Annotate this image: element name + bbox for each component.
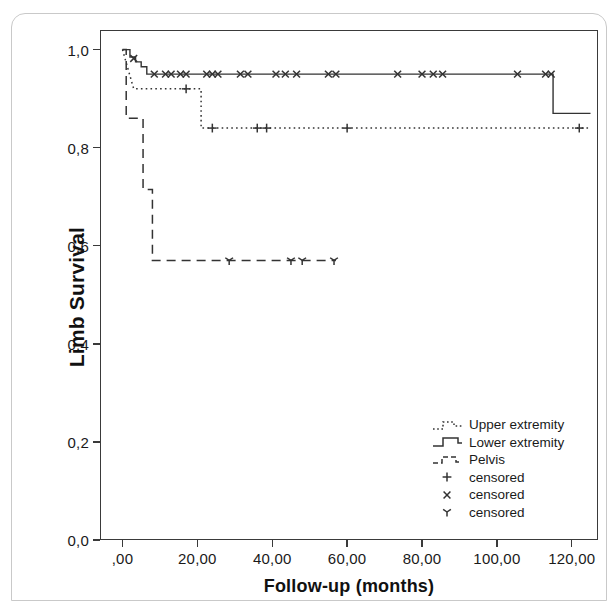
- legend-item: censored: [432, 469, 582, 487]
- x-tick-label: 20,00: [178, 550, 217, 567]
- x-tick-label: 120,00: [548, 550, 595, 567]
- x-tick-label: 100,00: [473, 550, 520, 567]
- legend-item-label: Lower extremity: [469, 436, 564, 450]
- y-tick-mark: [93, 49, 100, 50]
- x-tick-mark: [496, 540, 497, 547]
- legend-item: censored: [432, 486, 582, 504]
- y-tick-label: 1,0: [34, 41, 89, 58]
- x-tick-mark: [421, 540, 422, 547]
- y-tick-mark: [93, 441, 100, 442]
- x-tick-mark: [571, 540, 572, 547]
- y-axis-title: Limb Survival: [65, 187, 89, 407]
- legend-item-label: Upper extremity: [469, 418, 564, 432]
- solid-step-icon: [432, 434, 463, 450]
- y-tick-label: 0,2: [34, 433, 89, 450]
- cross-marker-icon: [432, 487, 463, 503]
- legend-item-label: Pelvis: [469, 453, 505, 467]
- tri-marker-icon: [432, 504, 463, 520]
- legend-item-label: censored: [469, 506, 525, 520]
- x-tick-label: 60,00: [328, 550, 367, 567]
- legend-item-label: censored: [469, 471, 525, 485]
- x-tick-label: ,00: [112, 550, 133, 567]
- chart-legend: Upper extremityLower extremityPelviscens…: [432, 416, 582, 521]
- x-tick-mark: [197, 540, 198, 547]
- x-tick-label: 40,00: [253, 550, 292, 567]
- legend-item: Upper extremity: [432, 416, 582, 434]
- legend-item-label: censored: [469, 488, 525, 502]
- x-axis-title: Follow-up (months): [100, 576, 598, 597]
- x-tick-label: 80,00: [403, 550, 442, 567]
- y-tick-mark: [93, 147, 100, 148]
- y-tick-mark: [93, 245, 100, 246]
- dashed-step-icon: [432, 452, 463, 468]
- plus-marker-icon: [432, 469, 463, 485]
- x-tick-mark: [122, 540, 123, 547]
- dotted-step-icon: [432, 417, 463, 433]
- legend-item: Pelvis: [432, 451, 582, 469]
- legend-item: Lower extremity: [432, 434, 582, 452]
- x-tick-mark: [272, 540, 273, 547]
- legend-item: censored: [432, 504, 582, 522]
- cross-censored-marker: [444, 491, 451, 498]
- y-tick-label: 0,0: [34, 532, 89, 549]
- y-tick-label: 0,8: [34, 139, 89, 156]
- y-tick-mark: [93, 343, 100, 344]
- x-tick-mark: [346, 540, 347, 547]
- plus-censored-marker: [443, 473, 452, 482]
- y-tick-mark: [93, 539, 100, 540]
- kaplan-meier-chart: 0,00,20,40,60,81,0 ,0020,0040,0060,0080,…: [0, 0, 614, 603]
- tri-censored-marker: [443, 510, 451, 517]
